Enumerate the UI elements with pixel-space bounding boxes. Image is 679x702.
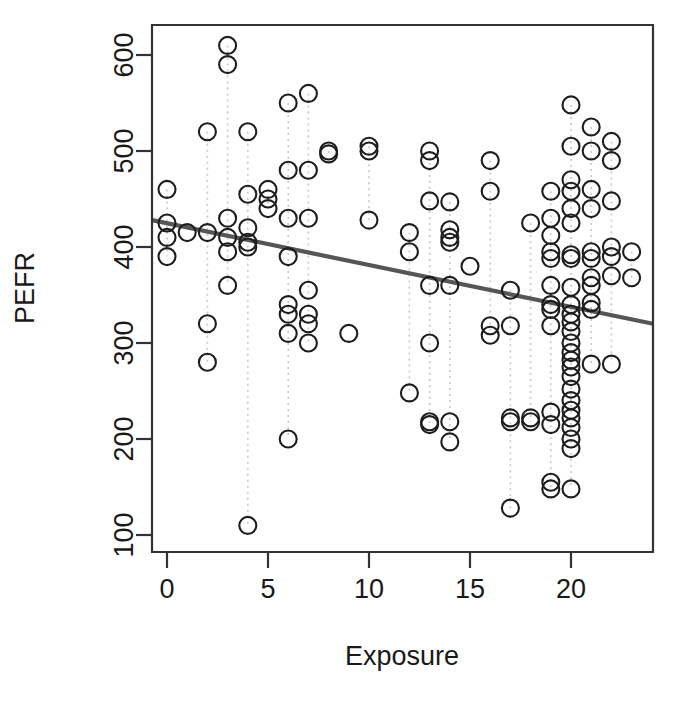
scatter-plot-figure: 100200300400500600 05101520 Exposure PEF…	[0, 0, 679, 702]
data-point	[300, 335, 317, 352]
x-axis-tick-label: 10	[354, 574, 384, 604]
data-point	[300, 210, 317, 227]
x-axis-tick-label: 20	[556, 574, 586, 604]
data-point	[482, 317, 499, 334]
data-point	[563, 431, 580, 448]
data-point	[542, 210, 559, 227]
data-point	[260, 191, 277, 208]
data-point	[623, 243, 640, 260]
data-point	[542, 277, 559, 294]
data-point	[563, 138, 580, 155]
data-point	[563, 335, 580, 352]
x-axis-title: Exposure	[345, 641, 459, 671]
data-point	[280, 248, 297, 265]
data-point	[603, 239, 620, 256]
x-axis-tick-label: 0	[159, 574, 174, 604]
x-axis-tick-label: 15	[455, 574, 485, 604]
y-axis-ticks: 100200300400500600	[109, 32, 152, 557]
data-point	[563, 250, 580, 267]
y-axis-tick-label: 500	[109, 128, 139, 173]
data-point	[300, 162, 317, 179]
data-point	[280, 325, 297, 342]
y-axis-tick-label: 300	[109, 320, 139, 365]
y-axis-title: PEFR	[10, 252, 40, 324]
data-point	[462, 258, 479, 275]
data-point	[502, 317, 519, 334]
data-point	[280, 296, 297, 313]
data-point	[219, 210, 236, 227]
data-point	[603, 267, 620, 284]
data-point	[441, 413, 458, 430]
data-point	[542, 227, 559, 244]
data-point	[522, 409, 539, 426]
data-point	[542, 317, 559, 334]
data-point	[441, 277, 458, 294]
x-axis-tick-label: 5	[260, 574, 275, 604]
data-point	[401, 384, 418, 401]
y-axis-tick-label: 100	[109, 512, 139, 557]
y-axis-tick-label: 400	[109, 224, 139, 269]
data-point	[542, 416, 559, 433]
data-point	[199, 354, 216, 371]
plot-canvas: 100200300400500600 05101520 Exposure PEF…	[0, 0, 679, 702]
y-axis-tick-label: 600	[109, 32, 139, 77]
plot-box-border	[152, 25, 653, 552]
data-points-layer	[159, 37, 641, 534]
data-point	[502, 413, 519, 430]
data-point	[239, 517, 256, 534]
data-point	[239, 186, 256, 203]
data-point	[300, 282, 317, 299]
data-point	[563, 183, 580, 200]
data-point	[563, 246, 580, 263]
data-point	[340, 325, 357, 342]
data-point	[583, 200, 600, 217]
data-point	[300, 306, 317, 323]
data-point	[421, 152, 438, 169]
data-point	[583, 356, 600, 373]
data-point	[300, 315, 317, 332]
data-point	[563, 279, 580, 296]
y-axis-tick-label: 200	[109, 416, 139, 461]
x-axis-ticks: 05101520	[159, 552, 586, 604]
data-point	[603, 192, 620, 209]
data-point	[583, 181, 600, 198]
